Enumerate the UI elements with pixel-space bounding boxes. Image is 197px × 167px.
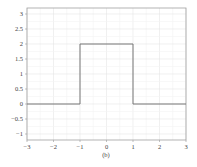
y-tick-label: 0.5 — [15, 85, 23, 92]
y-tick-label: 3 — [20, 10, 23, 17]
y-axis-ticks: 32.521.510.50−0.5−1 — [11, 10, 27, 137]
grid — [27, 8, 186, 140]
y-tick-label: 2.5 — [15, 25, 23, 32]
x-tick-label: −1 — [77, 143, 84, 150]
y-tick-label: 1.5 — [15, 55, 23, 62]
y-tick-label: 2 — [20, 40, 23, 47]
x-tick-label: −3 — [24, 143, 31, 150]
x-axis-ticks: −3−2−10123 — [24, 140, 188, 150]
x-tick-label: 1 — [131, 143, 134, 150]
x-tick-label: 3 — [184, 143, 187, 150]
caption: (b) — [102, 151, 110, 159]
chart: 32.521.510.50−0.5−1 −3−2−10123 (b) — [0, 0, 197, 167]
y-tick-label: −1 — [16, 130, 23, 137]
y-tick-label: −0.5 — [11, 115, 23, 122]
y-tick-label: 0 — [20, 100, 23, 107]
x-tick-label: 2 — [158, 143, 161, 150]
x-tick-label: −2 — [50, 143, 57, 150]
x-tick-label: 0 — [105, 143, 108, 150]
y-tick-label: 1 — [20, 70, 23, 77]
